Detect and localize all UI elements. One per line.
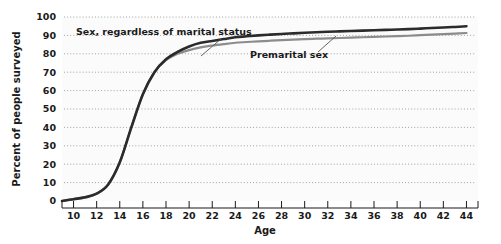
y-axis-title: Percent of people surveyed [11,31,22,186]
x-tick-label-30: 30 [298,210,312,221]
x-tick-label-14: 14 [113,210,127,221]
y-tick-label-60: 60 [43,85,57,96]
x-tick-label-44: 44 [460,210,474,221]
series-label-upper: Sex, regardless of marital status [76,26,252,37]
x-tick-label-16: 16 [136,210,150,221]
y-tick-label-50: 50 [43,103,57,114]
x-tick-label-32: 32 [321,210,334,221]
x-tick-label-26: 26 [252,210,266,221]
series-label-lower: Premarital sex [250,49,328,60]
y-tick-label-30: 30 [43,140,57,151]
x-tick-label-38: 38 [390,210,404,221]
y-tick-label-20: 20 [43,159,57,170]
y-tick-label-70: 70 [43,67,57,78]
chart-canvas: 101214161820222426283032343638404244 100… [0,0,501,244]
x-tick-label-20: 20 [182,210,196,221]
x-tick-label-40: 40 [414,210,428,221]
x-tick-label-36: 36 [367,210,381,221]
x-tick-label-22: 22 [206,210,219,221]
x-tick-label-34: 34 [344,210,358,221]
y-tick-label-100: 100 [36,11,56,22]
x-axis-title: Age [254,225,276,236]
y-tick-label-90: 90 [43,30,57,41]
y-tick-label-40: 40 [43,122,57,133]
y-tick-label-80: 80 [43,48,57,59]
y-tick-label-10: 10 [43,177,57,188]
x-tick-label-12: 12 [90,210,103,221]
plot-area-background [62,17,478,201]
chart-figure: 101214161820222426283032343638404244 100… [0,0,501,244]
x-tick-label-18: 18 [159,210,173,221]
x-tick-label-24: 24 [229,210,243,221]
x-tick-label-42: 42 [437,210,450,221]
x-tick-label-10: 10 [67,210,81,221]
y-tick-label-0: 0 [49,195,56,206]
x-tick-label-28: 28 [275,210,289,221]
